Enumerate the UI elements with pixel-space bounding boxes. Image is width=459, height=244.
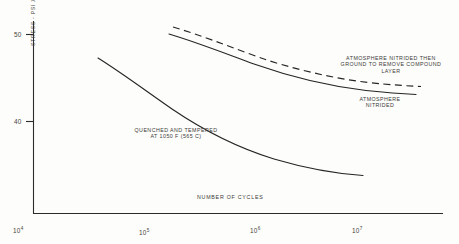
x-tick-base-1e7: 10 xyxy=(352,227,360,234)
x-tick-exp-1e6: 6 xyxy=(258,226,261,231)
annotation-nitrided-ground: ATMOSPHERE NITRIDED THENGROUND TO REMOVE… xyxy=(330,55,452,74)
chart-canvas: STRESS - PSI X 1000 NUMBER OF CYCLES 50 … xyxy=(0,0,459,244)
annotation-nitrided: ATMOSPHERENITRIDED xyxy=(340,96,420,109)
annotation-nitrided-ground-line-2: GROUND TO REMOVE COMPOUND xyxy=(330,61,452,67)
x-tick-exp-1e7: 7 xyxy=(360,226,363,231)
annotation-quenched-tempered-line-2: AT 1050 F (565 C) xyxy=(118,133,234,139)
annotation-nitrided-line-2: NITRIDED xyxy=(340,102,420,108)
y-tick-label-40: 40 xyxy=(14,118,22,125)
x-tick-base-1e4: 10 xyxy=(13,227,21,234)
annotation-quenched-tempered: QUENCHED AND TEMPEREDAT 1050 F (565 C) xyxy=(118,127,234,140)
x-tick-label-1e6: 106 xyxy=(250,226,260,234)
x-axis-label: NUMBER OF CYCLES xyxy=(197,194,263,200)
x-tick-exp-1e5: 5 xyxy=(147,228,150,233)
x-tick-label-1e4: 104 xyxy=(13,226,23,234)
annotation-nitrided-ground-line-3: LAYER xyxy=(330,68,452,74)
x-tick-label-1e7: 107 xyxy=(352,226,362,234)
series-line-quenched-tempered xyxy=(98,58,363,176)
x-tick-label-1e5: 105 xyxy=(139,228,149,236)
chart-svg xyxy=(0,0,459,244)
x-tick-base-1e6: 10 xyxy=(250,227,258,234)
y-axis-label: STRESS - PSI X 1000 xyxy=(30,0,36,46)
x-tick-base-1e5: 10 xyxy=(139,229,147,236)
x-tick-exp-1e4: 4 xyxy=(21,226,24,231)
y-tick-label-50: 50 xyxy=(14,31,22,38)
